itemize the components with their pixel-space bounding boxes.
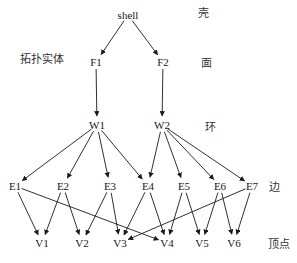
arrow-e2-to-v1	[45, 193, 60, 235]
arrow-e7-to-v6	[237, 193, 250, 235]
arrow-w2-to-e4	[150, 132, 160, 177]
node-e7: E7	[246, 180, 258, 192]
arrow-w1-to-e1	[22, 129, 91, 180]
arrow-e1-to-v1	[18, 192, 38, 235]
topological-entity-label: 拓扑实体	[20, 50, 64, 66]
arrow-shell-to-f2	[132, 21, 157, 55]
node-f2: F2	[157, 56, 169, 68]
arrow-e6-to-v5	[205, 193, 218, 235]
arrow-e5-to-v4	[170, 193, 182, 235]
loop-level-label: 环	[205, 118, 216, 134]
arrow-w1-to-e2	[67, 131, 93, 178]
node-v4: V4	[160, 237, 173, 249]
node-v3: V3	[113, 237, 126, 249]
node-v2: V2	[75, 237, 88, 249]
node-w2: W2	[154, 119, 170, 131]
arrow-shell-to-f1	[101, 21, 124, 55]
diagram-edges	[0, 0, 297, 263]
node-shell: shell	[118, 9, 139, 21]
node-e2: E2	[57, 180, 69, 192]
node-e3: E3	[104, 180, 116, 192]
arrow-w1-to-e4	[101, 130, 142, 179]
node-e1: E1	[9, 180, 21, 192]
arrow-e2-to-v2	[65, 193, 79, 235]
shell-level-label: 壳	[198, 4, 209, 20]
arrow-f2-to-w2	[162, 69, 163, 116]
arrow-e6-to-v6	[222, 193, 232, 234]
node-e6: E6	[214, 180, 226, 192]
arrow-e3-to-v3	[111, 193, 118, 234]
node-v5: V5	[195, 237, 208, 249]
arrow-e4-to-v4	[150, 193, 164, 235]
arrow-w1-to-e3	[98, 132, 108, 177]
arrow-e1-to-v4	[22, 188, 159, 239]
face-level-label: 面	[201, 54, 212, 70]
node-f1: F1	[90, 56, 102, 68]
node-v1: V1	[35, 237, 48, 249]
node-e4: E4	[142, 180, 154, 192]
arrow-w2-to-e6	[167, 130, 214, 179]
arrow-e4-to-v3	[124, 192, 145, 235]
node-w1: W1	[89, 119, 105, 131]
node-v6: V6	[227, 237, 240, 249]
arrow-f1-to-w1	[96, 69, 97, 116]
arrow-w2-to-e5	[164, 132, 181, 178]
edge-level-label: 边	[269, 178, 280, 194]
node-e5: E5	[178, 180, 190, 192]
vertex-level-label: 顶点	[268, 235, 290, 251]
